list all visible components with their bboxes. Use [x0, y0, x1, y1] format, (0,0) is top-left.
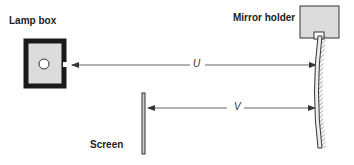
screen — [142, 93, 145, 154]
mirror-holder — [300, 6, 339, 39]
v-label: V — [231, 101, 244, 112]
u-label: U — [190, 58, 203, 69]
lamp-box — [26, 41, 67, 86]
concave-mirror — [315, 36, 327, 148]
lamp-box-label: Lamp box — [9, 15, 56, 26]
screen-label: Screen — [90, 139, 123, 150]
mirror-holder-label: Mirror holder — [233, 12, 295, 23]
